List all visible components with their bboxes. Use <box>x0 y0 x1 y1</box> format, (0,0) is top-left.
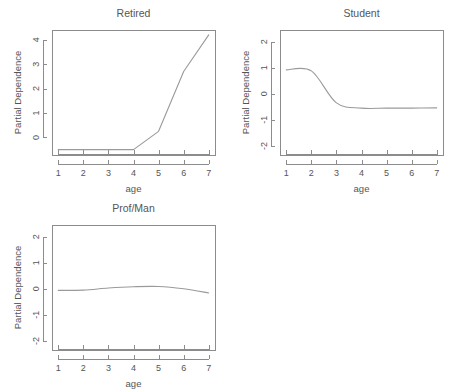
y-tick-label: 0 <box>31 286 41 291</box>
panel-title: Retired <box>117 7 151 19</box>
x-tick-label: 5 <box>384 168 389 178</box>
x-tick-label: 5 <box>156 363 161 373</box>
y-tick-label: 1 <box>259 65 269 70</box>
x-tick-label: 3 <box>106 168 111 178</box>
y-axis-title: Partial Dependence <box>240 51 251 134</box>
y-tick-label: -2 <box>31 337 41 345</box>
plot-box <box>53 226 216 351</box>
x-tick-label: 6 <box>409 168 414 178</box>
y-tick-label: 4 <box>31 37 41 42</box>
y-tick-label: 2 <box>31 234 41 239</box>
plot-box <box>53 31 216 156</box>
y-tick-label: 2 <box>31 86 41 91</box>
x-tick-label: 2 <box>309 168 314 178</box>
series-line <box>58 35 208 150</box>
y-tick-label: 1 <box>31 111 41 116</box>
panel-student: Student1234567age-2-1012Partial Dependen… <box>228 0 456 196</box>
y-tick-label: -1 <box>259 116 269 124</box>
panel-prof-man: Prof/Man1234567age-2-1012Partial Depende… <box>0 195 228 391</box>
x-tick-label: 4 <box>131 168 136 178</box>
x-tick-label: 1 <box>56 168 61 178</box>
x-tick-label: 5 <box>156 168 161 178</box>
x-tick-label: 1 <box>284 168 289 178</box>
plot-canvas-1: Student1234567age-2-1012Partial Dependen… <box>228 0 456 196</box>
partial-dependence-figure: Retired1234567age01234Partial Dependence… <box>0 0 456 391</box>
plot-canvas-2: Prof/Man1234567age-2-1012Partial Depende… <box>0 195 228 391</box>
x-tick-label: 1 <box>56 363 61 373</box>
series-line <box>286 68 436 108</box>
x-axis-title: age <box>126 183 142 194</box>
x-tick-label: 6 <box>181 168 186 178</box>
x-tick-label: 7 <box>206 363 211 373</box>
x-tick-label: 7 <box>206 168 211 178</box>
y-tick-label: 1 <box>31 260 41 265</box>
y-axis-title: Partial Dependence <box>12 51 23 134</box>
x-tick-label: 3 <box>334 168 339 178</box>
x-tick-label: 2 <box>81 168 86 178</box>
y-axis-title: Partial Dependence <box>12 246 23 329</box>
series-line <box>58 286 208 293</box>
plot-canvas-0: Retired1234567age01234Partial Dependence <box>0 0 228 196</box>
y-tick-label: 3 <box>31 62 41 67</box>
panel-title: Student <box>343 7 379 19</box>
x-axis-title: age <box>354 183 370 194</box>
x-tick-label: 3 <box>106 363 111 373</box>
y-tick-label: -1 <box>31 311 41 319</box>
plot-box <box>281 31 444 156</box>
x-tick-label: 4 <box>359 168 364 178</box>
x-tick-label: 4 <box>131 363 136 373</box>
x-tick-label: 6 <box>181 363 186 373</box>
panel-retired: Retired1234567age01234Partial Dependence <box>0 0 228 196</box>
y-tick-label: 0 <box>259 91 269 96</box>
y-tick-label: -2 <box>259 142 269 150</box>
y-tick-label: 2 <box>259 39 269 44</box>
x-tick-label: 2 <box>81 363 86 373</box>
x-tick-label: 7 <box>434 168 439 178</box>
x-axis-title: age <box>126 378 142 389</box>
panel-title: Prof/Man <box>112 202 155 214</box>
y-tick-label: 0 <box>31 135 41 140</box>
